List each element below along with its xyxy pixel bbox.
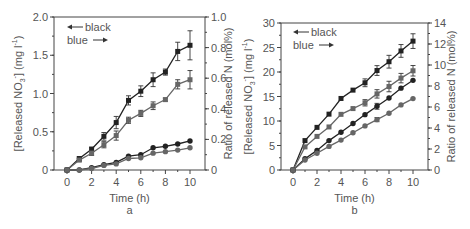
data-point-circle	[410, 78, 415, 83]
x-tick-label: 4	[338, 176, 344, 188]
data-point-square	[126, 98, 131, 103]
data-point-circle	[163, 144, 168, 149]
data-point-circle	[89, 166, 94, 171]
series-line	[293, 41, 413, 170]
x-tick-label: 6	[138, 176, 144, 188]
data-point-circle	[410, 96, 415, 101]
y-tick-label-left: 25	[263, 42, 275, 54]
data-point-square	[163, 70, 168, 75]
data-point-circle	[187, 138, 192, 143]
x-tick-label: 2	[314, 176, 320, 188]
y-tick-label-right: 2	[434, 143, 440, 155]
data-point-square	[387, 84, 392, 89]
legend-black-label: black	[85, 21, 111, 33]
data-point-square	[151, 103, 156, 108]
data-point-square	[351, 106, 356, 111]
data-point-square	[175, 49, 180, 54]
y-axis-label-part: ] (mg l	[242, 49, 254, 80]
y-tick-label-right: 8	[434, 80, 440, 92]
data-point-circle	[350, 121, 355, 126]
data-point-circle	[77, 167, 82, 172]
y-tick-label-right: 1.0	[211, 11, 226, 23]
data-point-square	[126, 118, 131, 123]
panel-caption: b	[351, 204, 357, 216]
data-point-circle	[126, 156, 131, 161]
data-point-square	[375, 91, 380, 96]
data-point-square	[188, 77, 193, 82]
y-tick-label-right: 14	[434, 17, 446, 29]
y-tick-label-left: 0.5	[33, 126, 48, 138]
data-point-circle	[138, 155, 143, 160]
arrow-head-left-icon	[67, 25, 72, 30]
series-black-squares	[291, 34, 416, 173]
arrow-head-left-icon	[293, 30, 298, 35]
data-point-circle	[187, 145, 192, 150]
data-point-circle	[101, 163, 106, 168]
data-point-circle	[338, 137, 343, 142]
data-point-square	[77, 158, 82, 163]
data-point-circle	[175, 147, 180, 152]
figure: 00.51.01.52.000.20.40.60.81.00246810Time…	[0, 0, 470, 229]
y-tick-label-right: 0	[211, 164, 217, 176]
y-tick-label-right: 4	[434, 122, 440, 134]
x-tick-label: 10	[184, 176, 196, 188]
legend-blue-label: blue	[67, 34, 88, 46]
data-point-square	[339, 96, 344, 101]
y-tick-label-left: 20	[263, 66, 275, 78]
y-tick-label-right: 6	[434, 101, 440, 113]
data-point-square	[387, 59, 392, 64]
y-axis-label-part: )	[242, 39, 254, 43]
data-point-square	[303, 144, 308, 149]
data-point-circle	[114, 161, 119, 166]
data-point-circle	[338, 130, 343, 135]
data-point-circle	[163, 149, 168, 154]
y-tick-label-left: 0	[269, 164, 275, 176]
x-tick-label: 8	[162, 176, 168, 188]
data-point-circle	[64, 167, 69, 172]
data-point-square	[114, 133, 119, 138]
data-point-square	[175, 82, 180, 87]
data-point-circle	[302, 157, 307, 162]
data-point-circle	[314, 151, 319, 156]
data-point-square	[101, 134, 106, 139]
y-axis-label-part: [Released NO	[12, 82, 24, 152]
y-axis-label-right: Ratio of released N (mol%)	[445, 30, 457, 162]
data-point-circle	[150, 150, 155, 155]
x-tick-label: 6	[362, 176, 368, 188]
y-tick-label-left: 15	[263, 91, 275, 103]
data-point-square	[114, 120, 119, 125]
data-point-circle	[290, 167, 295, 172]
data-point-square	[327, 124, 332, 129]
data-point-circle	[374, 104, 379, 109]
y-axis-label-part: ] (mg l	[12, 46, 24, 77]
y-tick-label-left: 1.0	[33, 88, 48, 100]
data-point-circle	[386, 95, 391, 100]
data-point-circle	[326, 144, 331, 149]
arrow-head-right-icon	[103, 38, 108, 43]
data-point-square	[89, 151, 94, 156]
y-axis-label-left: [Released NO3-] (mg l-1)	[11, 36, 26, 152]
data-point-square	[399, 76, 404, 81]
x-axis-label: Time (h)	[334, 192, 375, 204]
panel-caption: a	[126, 204, 133, 216]
y-axis-label-part: )	[12, 36, 24, 40]
y-tick-label-right: 0	[434, 164, 440, 176]
x-axis-label: Time (h)	[109, 192, 150, 204]
legend: blackblue	[293, 26, 337, 51]
legend-black-label: black	[311, 26, 337, 38]
data-point-circle	[386, 111, 391, 116]
data-point-square	[363, 100, 368, 105]
y-tick-label-left: 0	[42, 164, 48, 176]
data-point-square	[101, 142, 106, 147]
data-point-square	[375, 68, 380, 73]
y-tick-label-left: 2.0	[33, 11, 48, 23]
data-point-square	[411, 39, 416, 44]
data-point-square	[351, 88, 356, 93]
chart-panel-a: 00.51.01.52.000.20.40.60.81.00246810Time…	[11, 11, 234, 216]
data-point-circle	[398, 102, 403, 107]
data-point-square	[399, 48, 404, 53]
data-point-circle	[374, 117, 379, 122]
data-point-circle	[362, 112, 367, 117]
x-tick-label: 2	[89, 176, 95, 188]
data-point-square	[138, 111, 143, 116]
